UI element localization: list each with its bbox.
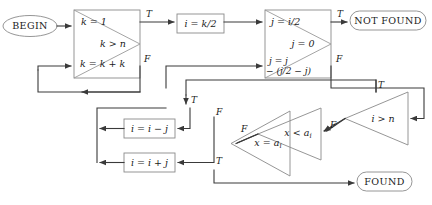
node-outlines	[3, 10, 426, 191]
flow-edges	[38, 22, 424, 183]
flowchart-graphics	[0, 0, 432, 205]
flowchart-canvas: BEGIN NOT FOUND FOUND k = 1 k > n k = k …	[0, 0, 432, 205]
